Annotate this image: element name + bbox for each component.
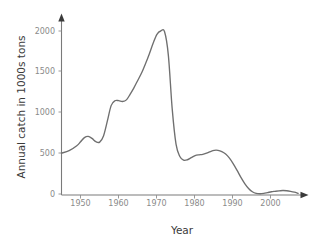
x-axis <box>62 192 309 198</box>
y-tick-label-2000: 2000 <box>35 27 55 36</box>
x-tick-labels: 1950 1960 1970 1980 1990 2000 <box>70 199 280 208</box>
x-tick-label-1960: 1960 <box>108 199 128 208</box>
y-axis <box>58 14 64 196</box>
y-tick-label-1500: 1500 <box>35 67 55 76</box>
x-tick-label-1950: 1950 <box>70 199 90 208</box>
x-axis-arrow-icon <box>301 192 309 198</box>
chart-container: 0 500 1000 1500 2000 1950 1960 1970 1980… <box>0 0 315 246</box>
x-tick-label-1980: 1980 <box>184 199 204 208</box>
data-series-line <box>62 30 299 194</box>
y-tick-labels: 0 500 1000 1500 2000 <box>35 27 55 199</box>
y-tick-label-1000: 1000 <box>35 108 55 117</box>
y-tick-label-0: 0 <box>50 190 55 199</box>
x-axis-title: Year <box>170 224 194 236</box>
x-tick-label-1970: 1970 <box>146 199 166 208</box>
y-axis-arrow-icon <box>58 14 64 22</box>
y-tick-label-500: 500 <box>40 149 55 158</box>
y-axis-title: Annual catch in 1000s tons <box>15 35 27 178</box>
x-tick-label-1990: 1990 <box>222 199 242 208</box>
x-tick-label-2000: 2000 <box>260 199 280 208</box>
line-chart: 0 500 1000 1500 2000 1950 1960 1970 1980… <box>0 0 315 246</box>
